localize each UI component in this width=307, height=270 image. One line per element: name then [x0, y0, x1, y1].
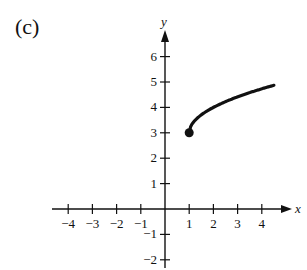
y-tick-label: 1: [151, 176, 158, 191]
x-tick-label: 4: [259, 216, 266, 231]
x-tick-label: 2: [210, 216, 217, 231]
x-tick-label: −2: [110, 216, 124, 231]
y-tick-label: 5: [151, 74, 158, 89]
y-tick-label: 3: [151, 125, 158, 140]
y-tick-label: 2: [151, 150, 158, 165]
y-tick-label: −2: [143, 252, 157, 267]
x-axis-label: x: [294, 201, 301, 216]
function-graph: xy−4−3−2−11234−2−1123456: [0, 0, 307, 270]
x-tick-label: −4: [61, 216, 75, 231]
function-curve: [189, 85, 274, 133]
start-point-marker: [185, 128, 194, 137]
y-tick-label: −1: [143, 226, 157, 241]
y-tick-label: 6: [151, 49, 158, 64]
y-axis-label: y: [159, 14, 167, 29]
y-tick-label: 4: [151, 99, 158, 114]
x-tick-label: 3: [234, 216, 241, 231]
y-axis-arrow-icon: [161, 30, 169, 42]
x-tick-label: 1: [186, 216, 193, 231]
x-tick-label: −3: [85, 216, 99, 231]
x-axis-arrow-icon: [281, 205, 292, 213]
